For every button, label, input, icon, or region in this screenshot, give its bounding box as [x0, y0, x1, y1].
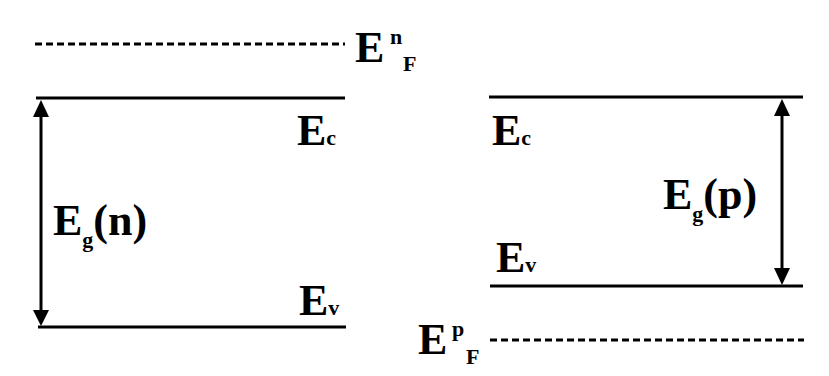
p-band-gap-label: Eg(p): [663, 173, 757, 217]
p-conduction-band-label: Ec: [492, 109, 531, 153]
p-fermi-level-sub: F: [466, 346, 479, 368]
n-fermi-level-sub: F: [403, 53, 416, 75]
n-fermi-level-label: E: [355, 26, 384, 70]
n-fermi-level-sup: n: [390, 26, 402, 48]
p-fermi-level-sup: p: [452, 318, 464, 340]
p-fermi-level-label: E: [418, 318, 447, 362]
n-conduction-band-label: Ec: [297, 109, 336, 153]
n-valence-band-label: Ev: [299, 279, 339, 323]
n-band-gap-label: Eg(n): [53, 199, 147, 243]
p-valence-band-label: Ev: [496, 236, 536, 280]
